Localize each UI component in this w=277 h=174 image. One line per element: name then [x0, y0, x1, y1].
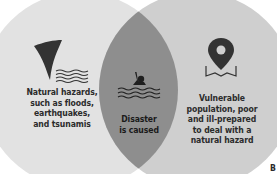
right-line-2: population, poor: [174, 104, 270, 115]
intersection-line-1: Disaster: [110, 114, 168, 125]
corner-fragment: B: [270, 163, 277, 174]
left-line-4: and tsunamis: [14, 119, 110, 130]
intersection-line-2: is caused: [110, 125, 168, 136]
left-circle-label: Natural hazards, such as floods, earthqu…: [14, 87, 110, 129]
right-line-1: Vulnerable: [174, 93, 270, 104]
tornado-waves-icon: [32, 40, 96, 86]
left-line-3: earthquakes,: [14, 108, 110, 119]
right-line-3: and ill-prepared: [174, 114, 270, 125]
left-line-2: such as floods,: [14, 98, 110, 109]
left-line-1: Natural hazards,: [14, 87, 110, 98]
map-pin-icon: [204, 38, 238, 78]
right-line-5: natural hazard: [174, 135, 270, 146]
right-circle-label: Vulnerable population, poor and ill-prep…: [174, 93, 270, 146]
drowning-person-icon: [116, 70, 162, 102]
right-line-4: to deal with a: [174, 125, 270, 136]
intersection-label: Disaster is caused: [110, 114, 168, 135]
